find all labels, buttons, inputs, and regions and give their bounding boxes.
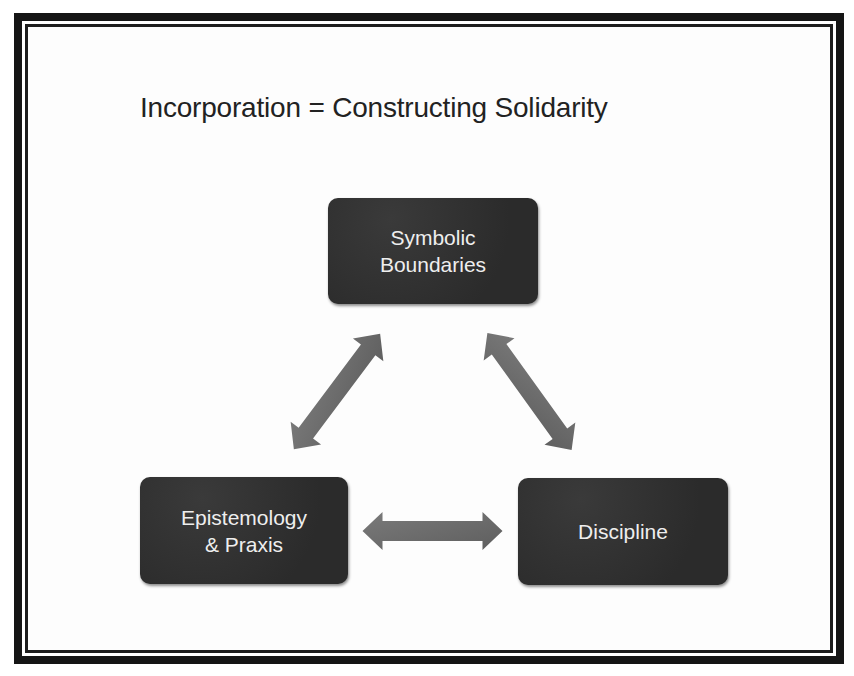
node-label-line: & Praxis [181, 531, 307, 558]
node-symbolic-boundaries: Symbolic Boundaries [328, 198, 538, 304]
node-discipline: Discipline [518, 478, 728, 585]
slide-title: Incorporation = Constructing Solidarity [140, 92, 608, 124]
node-label-line: Symbolic [380, 224, 486, 251]
node-label-line: Epistemology [181, 504, 307, 531]
node-label-line: Boundaries [380, 251, 486, 278]
node-label-line: Discipline [578, 518, 668, 545]
node-epistemology-praxis: Epistemology & Praxis [140, 477, 348, 584]
